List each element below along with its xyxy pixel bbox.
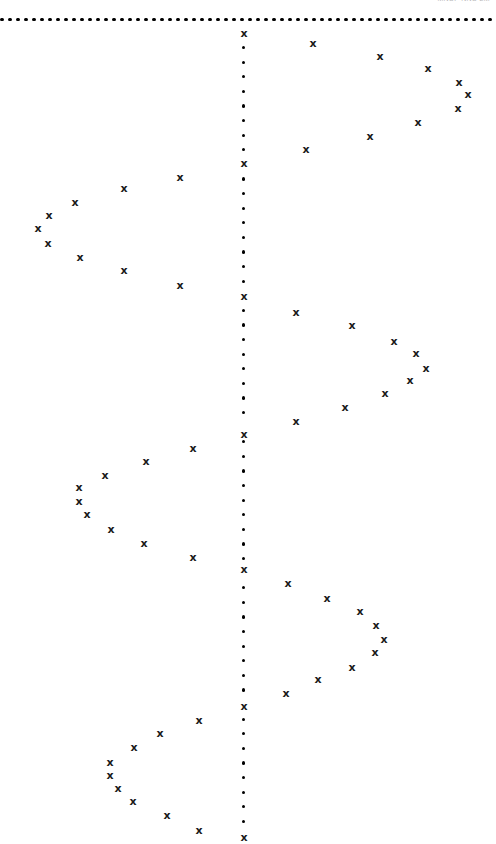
data-point-marker: x: [195, 825, 202, 836]
data-point-marker: x: [381, 388, 388, 399]
axis-dot: [40, 18, 43, 21]
axis-dot: [8, 18, 11, 21]
data-point-marker: x: [406, 375, 413, 386]
data-point-marker: x: [163, 810, 170, 821]
data-point-marker: x: [454, 103, 461, 114]
axis-dot: [344, 18, 347, 21]
axis-dot: [336, 18, 339, 21]
axis-dot: [242, 192, 245, 195]
horizontal-dotted-axis: [0, 18, 496, 22]
axis-node-marker: x: [240, 158, 247, 169]
axis-node-marker: x: [240, 291, 247, 302]
axis-dot: [96, 18, 99, 21]
axis-dot: [32, 18, 35, 21]
data-point-marker: x: [314, 674, 321, 685]
axis-dot: [488, 18, 491, 21]
axis-dot: [242, 221, 245, 224]
axis-dot: [242, 134, 245, 137]
axis-dot: [328, 18, 331, 21]
axis-dot: [216, 18, 219, 21]
axis-dot: [184, 18, 187, 21]
data-point-marker: x: [107, 524, 114, 535]
axis-dot: [242, 280, 245, 283]
axis-dot: [144, 18, 147, 21]
axis-node-marker: x: [240, 429, 247, 440]
axis-dot: [48, 18, 51, 21]
data-point-marker: x: [45, 210, 52, 221]
axis-dot: [242, 615, 245, 618]
data-point-marker: x: [390, 336, 397, 347]
axis-dot: [304, 18, 307, 21]
axis-dot: [128, 18, 131, 21]
axis-dot: [242, 601, 245, 604]
axis-dot: [242, 557, 245, 560]
axis-dot: [72, 18, 75, 21]
page-header-text: MNSF NNS 2M: [437, 0, 490, 2]
axis-dot: [192, 18, 195, 21]
axis-node-marker: x: [240, 832, 247, 843]
axis-dot: [242, 338, 245, 341]
axis-dot: [224, 18, 227, 21]
axis-dot: [242, 75, 245, 78]
data-point-marker: x: [106, 770, 113, 781]
data-point-marker: x: [140, 538, 147, 549]
data-point-marker: x: [120, 265, 127, 276]
data-point-marker: x: [376, 51, 383, 62]
axis-dot: [368, 18, 371, 21]
axis-dot: [248, 18, 251, 21]
axis-dot: [112, 18, 115, 21]
axis-dot: [242, 411, 245, 414]
data-point-marker: x: [366, 131, 373, 142]
data-point-marker: x: [114, 783, 121, 794]
data-point-marker: x: [189, 443, 196, 454]
axis-dot: [242, 630, 245, 633]
data-point-marker: x: [71, 197, 78, 208]
axis-dot: [242, 645, 245, 648]
axis-dot: [480, 18, 483, 21]
data-point-marker: x: [176, 172, 183, 183]
data-point-marker: x: [323, 593, 330, 604]
data-point-marker: x: [120, 183, 127, 194]
axis-dot: [280, 18, 283, 21]
axis-dot: [416, 18, 419, 21]
axis-dot: [242, 177, 245, 180]
data-point-marker: x: [34, 223, 41, 234]
axis-dot: [16, 18, 19, 21]
axis-dot: [160, 18, 163, 21]
axis-dot: [242, 805, 245, 808]
axis-dot: [352, 18, 355, 21]
axis-dot: [472, 18, 475, 21]
axis-dot: [176, 18, 179, 21]
axis-dot: [384, 18, 387, 21]
axis-dot: [242, 207, 245, 210]
data-point-marker: x: [75, 496, 82, 507]
axis-dot: [242, 90, 245, 93]
data-point-marker: x: [195, 715, 202, 726]
axis-dot: [360, 18, 363, 21]
data-point-marker: x: [292, 416, 299, 427]
axis-dot: [288, 18, 291, 21]
axis-dot: [208, 18, 211, 21]
axis-dot: [242, 265, 245, 268]
data-point-marker: x: [414, 117, 421, 128]
axis-dot: [320, 18, 323, 21]
axis-dot: [242, 250, 245, 253]
axis-dot: [104, 18, 107, 21]
data-point-marker: x: [75, 482, 82, 493]
data-point-marker: x: [130, 742, 137, 753]
vertical-dotted-axis: [242, 0, 246, 844]
axis-dot: [242, 542, 245, 545]
axis-dot: [242, 499, 245, 502]
axis-dot: [296, 18, 299, 21]
axis-node-marker: x: [240, 701, 247, 712]
scatter-plot-canvas: MNSF NNS 2M xxxxxxx xxxxxxxxxxxxxxxxxxxx…: [0, 0, 496, 844]
data-point-marker: x: [282, 688, 289, 699]
axis-dot: [64, 18, 67, 21]
data-point-marker: x: [44, 238, 51, 249]
data-point-marker: x: [76, 252, 83, 263]
data-point-marker: x: [106, 757, 113, 768]
data-point-marker: x: [455, 77, 462, 88]
axis-dot: [242, 46, 245, 49]
data-point-marker: x: [348, 320, 355, 331]
axis-dot: [242, 659, 245, 662]
